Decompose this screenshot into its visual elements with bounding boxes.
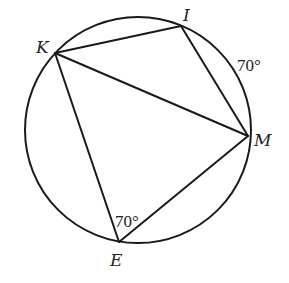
- circle: [25, 17, 251, 243]
- point-label-K: K: [35, 37, 50, 57]
- point-label-M: M: [253, 130, 272, 150]
- arc-IM-measure: 70°: [237, 56, 261, 75]
- angle-E-measure: 70°: [115, 212, 139, 231]
- segment-KI: [55, 26, 181, 53]
- geometry-diagram: K I M E 70° 70°: [0, 0, 289, 283]
- segment-KE: [55, 53, 119, 242]
- point-label-I: I: [182, 5, 190, 25]
- segment-IM: [181, 26, 248, 136]
- point-label-E: E: [109, 250, 123, 270]
- diagram-canvas: K I M E 70° 70°: [0, 0, 289, 283]
- segment-KM: [55, 53, 248, 136]
